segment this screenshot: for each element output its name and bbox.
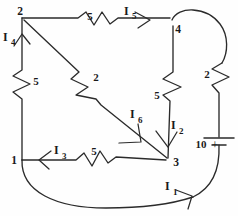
current-arrow-i2 xyxy=(156,131,177,147)
current-subscript-i2: 2 xyxy=(179,126,184,136)
current-arrow-i5 xyxy=(135,12,150,28)
current-symbol-i3: I xyxy=(54,143,59,157)
resistor-label-right: 2 xyxy=(204,68,210,80)
resistor-label-left: 5 xyxy=(33,75,39,87)
current-symbol-i4: I xyxy=(3,30,8,44)
current-label-i4: I 4 xyxy=(3,30,16,47)
circuit-diagram: 2 4 1 3 5 5 2 5 2 5 I 4 I 5 I 6 I 2 I xyxy=(0,0,238,216)
current-subscript-i6: 6 xyxy=(138,115,143,125)
right-branch-wire xyxy=(212,63,229,137)
current-symbol-i1: I xyxy=(165,179,170,193)
resistor-label-middle: 5 xyxy=(154,89,160,101)
current-symbol-i2: I xyxy=(171,118,176,132)
diagonal-branch-wire xyxy=(24,20,167,158)
node-label-3: 3 xyxy=(173,156,179,168)
node-label-1: 1 xyxy=(11,154,17,166)
resistor-label-bottom: 5 xyxy=(91,145,97,157)
current-label-i2: I 2 xyxy=(171,118,184,136)
current-subscript-i3: 3 xyxy=(62,151,67,161)
middle-branch-wire xyxy=(163,26,181,158)
right-arc-wire xyxy=(172,10,227,63)
current-subscript-i5: 5 xyxy=(132,11,137,21)
current-symbol-i6: I xyxy=(130,107,135,121)
battery-value-label: 10 xyxy=(196,138,208,150)
node-label-2: 2 xyxy=(17,5,23,17)
battery-polarity-label: + xyxy=(212,138,219,152)
current-arrow-i6 xyxy=(119,124,141,143)
node-label-4: 4 xyxy=(175,23,181,35)
resistor-label-top: 5 xyxy=(87,10,93,22)
current-label-i1: I 1 xyxy=(165,179,178,197)
current-subscript-i4: 4 xyxy=(11,37,16,47)
left-branch-wire xyxy=(13,18,30,160)
current-symbol-i5: I xyxy=(124,4,129,18)
current-label-i6: I 6 xyxy=(130,107,143,125)
current-subscript-i1: 1 xyxy=(173,187,178,197)
battery-lower-lead xyxy=(193,145,219,197)
resistor-label-diagonal: 2 xyxy=(93,71,99,83)
current-label-i3: I 3 xyxy=(54,143,67,161)
circuit-svg: 2 4 1 3 5 5 2 5 2 5 I 4 I 5 I 6 I 2 I xyxy=(0,0,238,216)
